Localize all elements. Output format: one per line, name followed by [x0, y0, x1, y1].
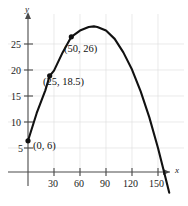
figure-container: y x 30 60 90 120 150 5 10 15 20 25 (0, 6…: [0, 0, 188, 206]
x-tick-label-90: 90: [100, 179, 110, 189]
point-label-50-26: (50, 26): [64, 44, 97, 55]
data-point-marker: [69, 34, 74, 39]
y-tick-label-25: 25: [11, 40, 21, 50]
x-tick-label-150: 150: [149, 179, 164, 189]
y-tick-label-20: 20: [11, 66, 21, 76]
x-tick-label-30: 30: [48, 179, 58, 189]
x-axis-label: x: [175, 166, 179, 175]
data-point-marker: [25, 138, 30, 143]
point-label-0-6: (0, 6): [33, 141, 56, 152]
y-tick-label-15: 15: [11, 92, 21, 102]
y-tick-label-5: 5: [18, 144, 23, 154]
y-tick-label-10: 10: [11, 118, 21, 128]
x-tick-label-120: 120: [123, 179, 138, 189]
point-label-25-18-5: (25, 18.5): [43, 77, 84, 88]
x-tick-label-60: 60: [74, 179, 84, 189]
chart-canvas: [0, 0, 188, 206]
y-axis-label: y: [25, 5, 29, 14]
